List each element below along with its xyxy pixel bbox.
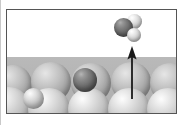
figure-root (0, 0, 185, 125)
adsorbate-molecule (7, 10, 176, 113)
illustration-canvas (7, 10, 176, 113)
illustration-panel (6, 9, 177, 114)
canvas-edge-rule (0, 0, 1, 125)
molecule-atom-lower-light (127, 28, 141, 42)
